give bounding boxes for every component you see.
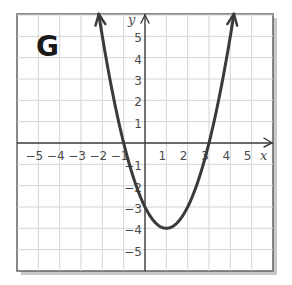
y-axis-label: y	[127, 12, 136, 27]
x-tick-label: 1	[159, 149, 167, 163]
x-tick-label: 4	[222, 149, 230, 163]
y-tick-label: 5	[134, 31, 142, 45]
y-tick-label: −3	[124, 202, 142, 216]
x-axis-label: x	[260, 148, 268, 163]
y-tick-label: −4	[124, 223, 142, 237]
y-tick-label: 1	[134, 117, 142, 131]
y-tick-label: 3	[134, 74, 142, 88]
y-tick-label: −1	[124, 159, 142, 173]
x-tick-label: −4	[47, 149, 65, 163]
graph-panel: −5−4−3−2−11234554321−1−2−3−4−5 G y x	[0, 0, 292, 285]
x-tick-label: −3	[68, 149, 86, 163]
x-tick-label: 5	[244, 149, 252, 163]
x-tick-label: −2	[89, 149, 107, 163]
x-tick-label: 2	[180, 149, 188, 163]
y-tick-label: 2	[134, 95, 142, 109]
y-tick-label: 4	[134, 53, 142, 67]
panel-label: G	[36, 30, 59, 63]
y-tick-label: −5	[124, 245, 142, 259]
x-tick-label: −5	[25, 149, 43, 163]
